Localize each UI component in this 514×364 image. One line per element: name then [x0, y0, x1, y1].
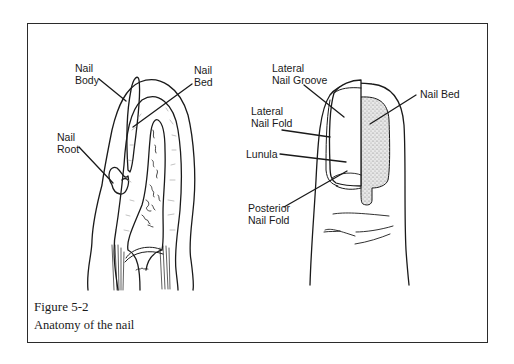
label-nail-root-line2: Root — [57, 143, 79, 155]
label-posterior-nail-fold-line2: Nail Fold — [248, 214, 290, 226]
label-lateral-nail-fold-line1: Lateral — [251, 105, 292, 117]
label-nail-root-line1: Nail — [57, 131, 79, 143]
label-nail-bed-line1: Nail — [194, 64, 213, 76]
label-posterior-nail-fold-line1: Posterior — [248, 202, 290, 214]
figure-caption: Anatomy of the nail — [34, 318, 134, 333]
label-lunula-line1: Lunula — [246, 148, 278, 160]
label-lateral-nail-groove-line1: Lateral — [272, 62, 327, 74]
label-nail-bed-left: Nail Bed — [194, 64, 213, 88]
label-lunula: Lunula — [246, 148, 278, 160]
label-lateral-nail-fold: Lateral Nail Fold — [251, 105, 292, 129]
label-lateral-nail-fold-line2: Nail Fold — [251, 117, 292, 129]
label-nail-body-line2: Body — [75, 74, 99, 86]
label-nail-bed-line2: Bed — [194, 76, 213, 88]
label-nail-body: Nail Body — [75, 62, 99, 86]
cross-section-drawing — [79, 77, 195, 290]
label-posterior-nail-fold: Posterior Nail Fold — [248, 202, 290, 226]
label-nail-root: Nail Root — [57, 131, 79, 155]
finger-drawing — [280, 80, 416, 285]
label-lateral-nail-groove: Lateral Nail Groove — [272, 62, 327, 86]
figure-number: Figure 5-2 — [34, 299, 89, 315]
label-nail-bed-right-line1: Nail Bed — [420, 88, 460, 100]
label-lateral-nail-groove-line2: Nail Groove — [272, 74, 327, 86]
label-nail-body-line1: Nail — [75, 62, 99, 74]
label-nail-bed-right: Nail Bed — [420, 88, 460, 100]
